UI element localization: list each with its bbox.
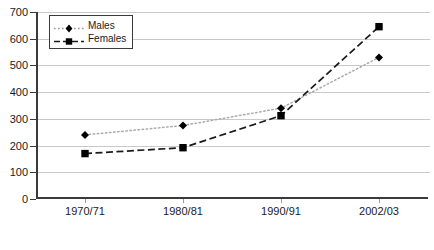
males-line-sample	[54, 20, 84, 31]
x-tick-mark-2	[281, 199, 282, 203]
x-tick-label-2: 1990/91	[261, 205, 301, 217]
legend-item-females: Females	[54, 32, 126, 45]
chart-legend: Males Females	[49, 15, 133, 49]
legend-label-females: Females	[88, 33, 126, 44]
chart-container: 0100200300400500600700 1970/711980/81199…	[0, 0, 434, 250]
x-tick-mark-1	[183, 199, 184, 203]
x-tick-label-0: 1970/71	[65, 205, 105, 217]
females-line-sample	[54, 33, 84, 44]
legend-label-males: Males	[88, 20, 115, 31]
x-tick-label-3: 2002/03	[359, 205, 399, 217]
x-tick-mark-0	[85, 199, 86, 203]
legend-item-males: Males	[54, 19, 126, 32]
x-tick-mark-3	[379, 199, 380, 203]
x-tick-label-1: 1980/81	[163, 205, 203, 217]
